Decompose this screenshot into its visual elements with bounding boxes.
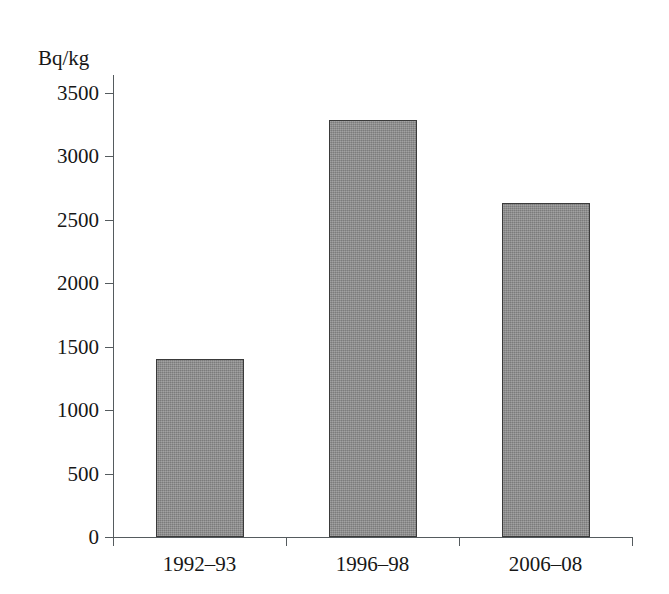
y-axis-tick-label: 0: [0, 527, 113, 548]
y-axis-tick-label-row: 1000: [0, 410, 113, 411]
y-axis-tick-label: 2500: [0, 210, 113, 231]
y-axis-tick-label-row: 500: [0, 474, 113, 475]
bar-chart: Bq/kg 0500100015002000250030003500 1992–…: [0, 0, 669, 594]
y-axis-tick-label-row: 1500: [0, 347, 113, 348]
y-axis-tick-label: 3000: [0, 146, 113, 167]
y-axis-tick-label: 1000: [0, 400, 113, 421]
y-axis-tick-label-row: 3500: [0, 93, 113, 94]
y-axis-tick-label: 500: [0, 464, 113, 485]
x-axis-tick: [459, 537, 460, 546]
x-axis-tick: [113, 537, 114, 546]
y-axis-tick-label: 3500: [0, 83, 113, 104]
y-axis-title: Bq/kg: [38, 46, 89, 70]
y-axis-tick-label-row: 2500: [0, 220, 113, 221]
bar: [156, 359, 244, 537]
bar: [329, 120, 417, 537]
x-axis-category-label: 1992–93: [113, 551, 286, 577]
x-axis-category-label: 2006–08: [459, 551, 632, 577]
y-axis-tick-label: 2000: [0, 273, 113, 294]
y-axis-line: [113, 75, 114, 538]
x-axis-line: [113, 537, 632, 538]
bar: [502, 203, 590, 537]
x-axis-tick: [632, 537, 633, 546]
y-axis-tick-label-row: 3000: [0, 156, 113, 157]
y-axis-tick-label-row: 2000: [0, 283, 113, 284]
y-axis-tick-label-row: 0: [0, 537, 113, 538]
x-axis-category-label: 1996–98: [286, 551, 459, 577]
y-axis-tick-label: 1500: [0, 337, 113, 358]
x-axis-tick: [286, 537, 287, 546]
